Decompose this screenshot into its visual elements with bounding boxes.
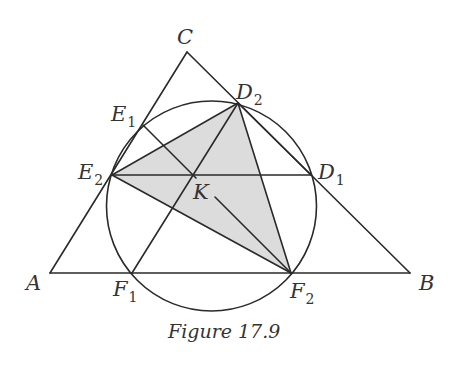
label-c: C [177, 25, 193, 49]
geometry-figure: C D2 E1 E2 D1 K A B F1 F2 Figure 17.9 [0, 0, 460, 368]
label-f1: F1 [112, 277, 138, 305]
label-e1: E1 [110, 102, 136, 130]
label-b: B [418, 271, 434, 295]
label-e2: E2 [77, 160, 103, 188]
label-d1: D1 [317, 160, 345, 188]
label-f2: F2 [289, 279, 315, 307]
label-a: A [24, 271, 41, 295]
label-k: K [192, 180, 210, 204]
figure-caption: Figure 17.9 [167, 320, 280, 342]
label-d2: D2 [235, 80, 263, 108]
